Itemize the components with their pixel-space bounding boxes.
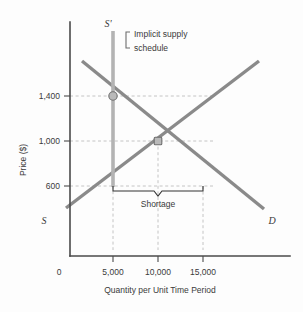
y-tick-label-600: 600 (46, 181, 60, 191)
curve-label-d: D (267, 215, 276, 226)
curve-label-s-prime: S' (104, 18, 112, 29)
implicit-price-point-marker (109, 92, 117, 100)
implicit-supply-annotation-line1: Implicit supply (134, 29, 188, 39)
x-tick-label-5000: 5,000 (102, 267, 124, 277)
supply-demand-chart: 1,400 1,000 600 0 5,000 10,000 15,000 Pr… (0, 0, 303, 312)
curve-label-s: S (42, 215, 47, 226)
chart-canvas: 1,400 1,000 600 0 5,000 10,000 15,000 Pr… (0, 0, 303, 312)
x-tick-label-10000: 10,000 (145, 267, 171, 277)
implicit-supply-annotation-line2: schedule (134, 43, 168, 53)
x-tick-marks (113, 256, 203, 262)
x-tick-label-15000: 15,000 (190, 267, 216, 277)
implicit-supply-leader (126, 32, 130, 48)
demand-curve (82, 61, 264, 209)
y-tick-marks (64, 96, 70, 186)
equilibrium-point-marker (154, 137, 162, 145)
x-tick-label-0: 0 (57, 267, 62, 277)
shortage-label: Shortage (141, 199, 176, 209)
y-tick-label-1000: 1,000 (39, 136, 61, 146)
gridlines-vertical (113, 96, 203, 250)
y-tick-label-1400: 1,400 (39, 91, 61, 101)
x-axis-title: Quantity per Unit Time Period (104, 285, 216, 295)
y-axis-title: Price ($) (18, 144, 28, 176)
